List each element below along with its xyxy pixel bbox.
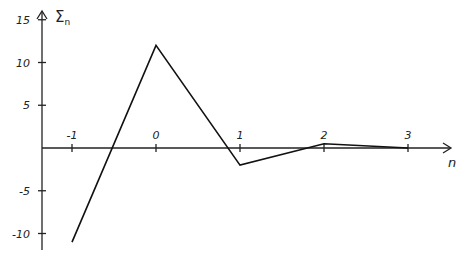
y-axis-label: Σn (55, 8, 70, 27)
axes (37, 11, 451, 250)
data-line (72, 45, 408, 242)
x-tick-label: 3 (405, 129, 412, 142)
ticks (38, 20, 408, 234)
x-tick-label: 0 (153, 129, 160, 142)
x-tick-label: 1 (237, 129, 244, 142)
x-axis-label: n (448, 155, 456, 170)
y-tick-label: 15 (16, 14, 30, 27)
y-tick-label: 5 (23, 99, 30, 112)
y-tick-label: 10 (16, 57, 30, 70)
x-tick-label: -1 (67, 129, 78, 142)
tick-labels: -1012315105-5-10 (12, 14, 411, 241)
line-chart: -1012315105-5-10 Σn n (0, 0, 469, 257)
y-tick-label: -5 (19, 185, 30, 198)
x-tick-label: 2 (321, 129, 328, 142)
y-tick-label: -10 (12, 228, 30, 241)
